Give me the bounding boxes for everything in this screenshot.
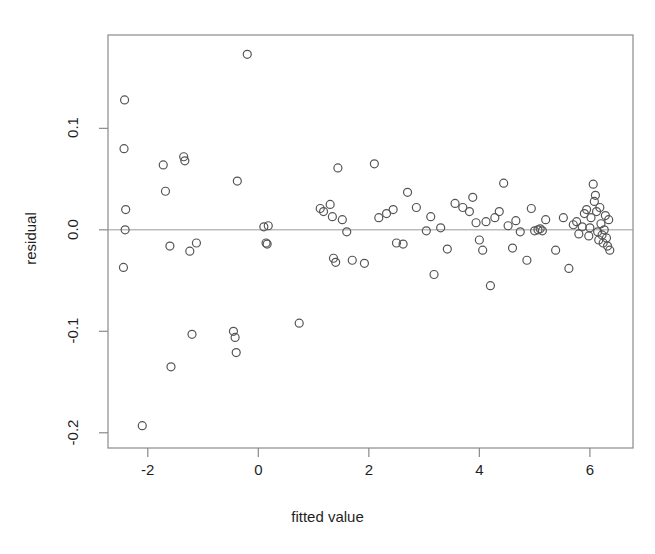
scatter-point (422, 227, 430, 235)
y-axis-ticks (99, 128, 108, 432)
scatter-point (500, 179, 508, 187)
scatter-point (437, 224, 445, 232)
scatter-point (427, 213, 435, 221)
scatter-point (542, 216, 550, 224)
scatter-point (167, 363, 175, 371)
scatter-point (430, 270, 438, 278)
scatter-point (586, 224, 594, 232)
scatter-point (472, 219, 480, 227)
scatter-point (186, 247, 194, 255)
scatter-point (243, 50, 251, 58)
scatter-point (166, 242, 174, 250)
scatter-point (348, 256, 356, 264)
scatter-point (138, 422, 146, 430)
scatter-point (159, 161, 167, 169)
scatter-point (120, 145, 128, 153)
scatter-point (233, 177, 241, 185)
y-axis-label: residual (22, 179, 39, 299)
scatter-point (404, 188, 412, 196)
scatter-point (232, 349, 240, 357)
scatter-point (475, 236, 483, 244)
scatter-point (295, 319, 303, 327)
scatter-point (119, 263, 127, 271)
x-tick-label: 2 (349, 461, 389, 478)
scatter-point (412, 204, 420, 212)
scatter-point (375, 214, 383, 222)
scatter-point (338, 216, 346, 224)
y-tick-label: -0.1 (64, 308, 81, 354)
scatter-point (565, 264, 573, 272)
scatter-point (370, 160, 378, 168)
y-tick-label: -0.2 (64, 409, 81, 455)
scatter-point (495, 208, 503, 216)
scatter-point (486, 282, 494, 290)
scatter-point (516, 228, 524, 236)
scatter-point (192, 239, 200, 247)
x-tick-label: -2 (128, 461, 168, 478)
scatter-plot-canvas (0, 0, 655, 554)
scatter-point (360, 259, 368, 267)
scatter-point (389, 206, 397, 214)
scatter-point (504, 222, 512, 230)
scatter-point (512, 217, 520, 225)
scatter-point (465, 208, 473, 216)
scatter-point (161, 187, 169, 195)
y-tick-label: 0.0 (64, 206, 81, 252)
scatter-point (451, 199, 459, 207)
scatter-point (121, 96, 129, 104)
x-tick-label: 4 (459, 461, 499, 478)
scatter-point (523, 256, 531, 264)
scatter-point (328, 213, 336, 221)
scatter-point (334, 164, 342, 172)
scatter-point (585, 232, 593, 240)
scatter-point (527, 205, 535, 213)
x-tick-label: 0 (238, 461, 278, 478)
scatter-point (509, 244, 517, 252)
x-tick-label: 6 (570, 461, 610, 478)
scatter-point (326, 200, 334, 208)
scatter-point (188, 330, 196, 338)
scatter-point (559, 214, 567, 222)
x-axis-ticks (148, 448, 590, 457)
data-points (119, 50, 613, 429)
scatter-point (589, 180, 597, 188)
x-axis-label: fitted value (0, 508, 655, 525)
scatter-point (122, 206, 130, 214)
scatter-point (479, 246, 487, 254)
plot-frame (108, 35, 633, 448)
scatter-point (597, 220, 605, 228)
scatter-point (443, 245, 451, 253)
y-tick-label: 0.1 (64, 105, 81, 151)
scatter-point (343, 228, 351, 236)
scatter-point (469, 193, 477, 201)
residual-plot-figure: fitted value residual -20246 0.10.0-0.1-… (0, 0, 655, 554)
scatter-point (482, 218, 490, 226)
plot-title (0, 0, 655, 4)
scatter-point (552, 246, 560, 254)
